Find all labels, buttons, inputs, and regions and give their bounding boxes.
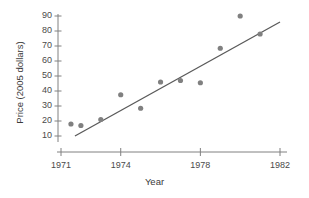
y-tick-label: 70 (30, 40, 52, 50)
x-tick-label: 1971 (46, 160, 76, 170)
y-axis-title: Price (2005 dollars) (14, 23, 25, 143)
y-tick-label: 60 (30, 55, 52, 65)
data-point (257, 31, 262, 36)
data-point (118, 92, 123, 97)
data-point (78, 123, 83, 128)
data-point (218, 46, 223, 51)
y-tick-label: 50 (30, 70, 52, 80)
data-points-group (68, 13, 262, 128)
scatter-plot-figure: 102030405060708090 1971197419781982 Pric… (0, 0, 309, 198)
data-point (238, 13, 243, 18)
x-tick-label: 1978 (185, 160, 215, 170)
y-tick-label: 40 (30, 85, 52, 95)
y-tick-label: 80 (30, 25, 52, 35)
y-tick-label: 90 (30, 10, 52, 20)
data-point (68, 121, 73, 126)
y-tick-label: 30 (30, 100, 52, 110)
axes-group (55, 14, 288, 156)
data-point (178, 78, 183, 83)
regression-line (75, 22, 280, 136)
x-tick-label: 1974 (106, 160, 136, 170)
trend-line (75, 22, 280, 136)
x-tick-label: 1982 (265, 160, 295, 170)
y-tick-label: 20 (30, 115, 52, 125)
data-point (198, 80, 203, 85)
x-axis-title: Year (0, 176, 309, 187)
data-point (138, 106, 143, 111)
data-point (98, 117, 103, 122)
y-tick-label: 10 (30, 130, 52, 140)
data-point (158, 79, 163, 84)
